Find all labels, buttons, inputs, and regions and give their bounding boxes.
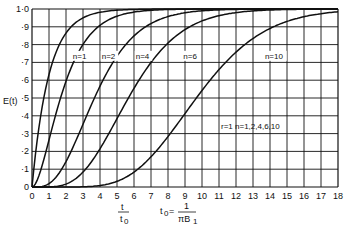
y-tick-label: ·7 [21,57,29,67]
x-label-denominator: t [120,214,123,224]
t0-den: πB [178,214,190,224]
grid [32,9,338,187]
t0-eq: = [169,206,174,216]
x-tick-label: 13 [248,191,258,201]
curve-label: n=2 [102,52,116,61]
x-tick-label: 3 [80,191,85,201]
curve-labels: n=1n=2n=4n=6n=10 [72,51,287,61]
x-tick-label: 6 [131,191,136,201]
y-tick-label: ·8 [21,40,29,50]
x-tick-label: 4 [97,191,102,201]
y-tick-label: ·3 [21,129,29,139]
y-tick-label: ·1 [21,164,29,174]
y-tick-label: 0 [24,182,29,192]
x-tick-label: 10 [197,191,207,201]
y-tick-label: ·4 [21,111,29,121]
x-tick-label: 1 [46,191,51,201]
y-tick-label: 1·0 [16,4,29,14]
x-tick-label: 8 [165,191,170,201]
y-tick-label: ·9 [21,22,29,32]
x-tick-labels: 0123456789101112131415161718 [29,191,343,201]
y-axis-label: E(t) [3,96,18,106]
x-tick-label: 17 [316,191,326,201]
x-label-sub: 0 [124,217,129,226]
t0-lhs: t [160,206,163,216]
y-tick-label: ·5 [21,93,29,103]
x-tick-label: 14 [265,191,275,201]
t0-definition: t 0 = 1 πB 1 [160,201,198,226]
x-tick-label: 0 [29,191,34,201]
t0-den-sub: 1 [193,217,198,226]
x-tick-label: 5 [114,191,119,201]
x-tick-label: 16 [299,191,309,201]
curve-label: n=6 [183,52,197,61]
t0-num: 1 [184,201,189,211]
x-tick-label: 11 [214,191,223,201]
erlang-cdf-chart: n=1n=2n=4n=6n=10 01234567891011121314151… [0,0,351,232]
x-tick-label: 9 [182,191,187,201]
curve-label: n=1 [73,52,87,61]
x-tick-label: 18 [333,191,343,201]
x-tick-label: 12 [231,191,241,201]
curve-label: n=4 [136,52,150,61]
annotation: r=1 n=1,2,4,6,10 [221,122,280,131]
curve-label: n=10 [265,52,284,61]
x-tick-label: 7 [148,191,153,201]
x-axis-label: t t 0 [118,202,129,226]
x-label-numerator: t [121,202,124,212]
y-tick-labels: 0·1·2·3·4·5·6·7·8·91·0 [16,4,29,192]
y-tick-label: ·6 [21,75,29,85]
y-tick-label: ·2 [21,146,29,156]
x-tick-label: 2 [63,191,68,201]
x-tick-label: 15 [282,191,292,201]
